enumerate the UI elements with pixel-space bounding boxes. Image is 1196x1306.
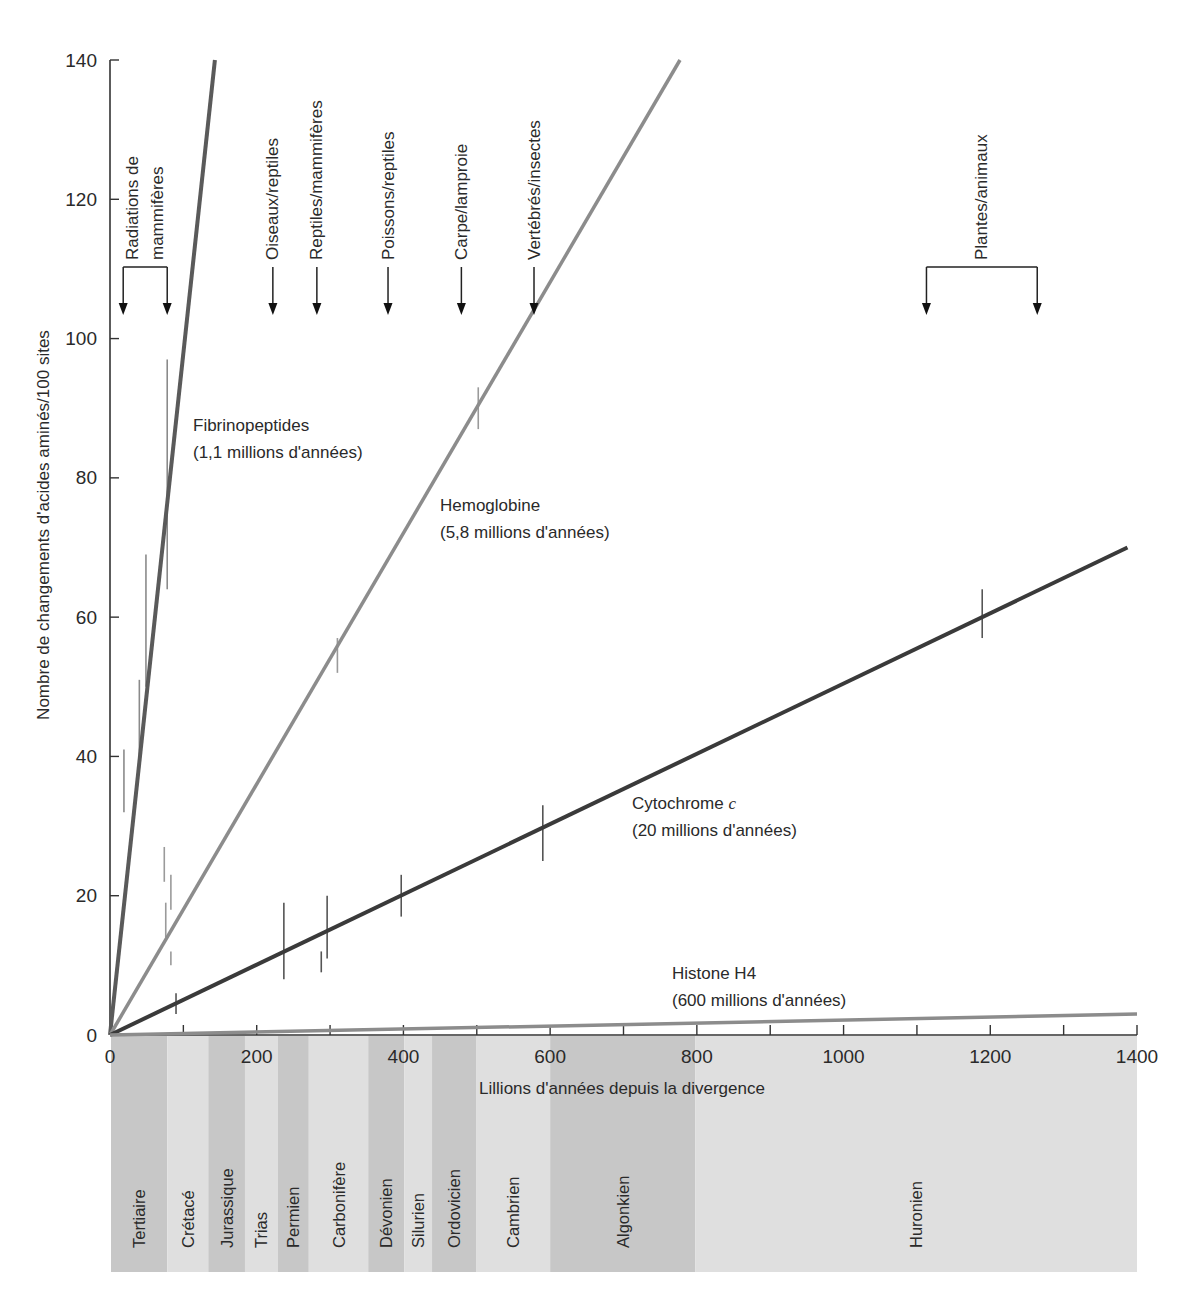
series-name-label: Cytochrome c (632, 794, 736, 813)
x-axis-title: Lillions d'années depuis la divergence (479, 1079, 765, 1098)
series-rate-label: (5,8 millions d'années) (440, 523, 610, 542)
series-name: Histone H4 (672, 964, 756, 983)
period-label: Crétacé (179, 1190, 197, 1248)
divergence-label: Vertébrés/insectes (525, 120, 544, 260)
series-name: Fibrinopeptides (193, 416, 309, 435)
arrow-down-icon (457, 303, 466, 315)
geologic-periods-band: TertiaireCrétacéJurassiqueTriasPermienCa… (111, 1036, 1137, 1272)
period-label: Jurassique (218, 1168, 236, 1248)
y-tick-label: 20 (76, 885, 97, 906)
series-name-label: Fibrinopeptides (193, 416, 309, 435)
period-label: Carbonifère (330, 1162, 348, 1248)
y-tick-label: 0 (86, 1025, 97, 1046)
x-tick-label: 800 (681, 1046, 713, 1067)
arrow-down-icon (268, 303, 277, 315)
divergence-label: Radiations de (123, 156, 142, 260)
arrow-down-icon (384, 303, 393, 315)
y-tick-label: 120 (65, 189, 97, 210)
y-tick-label: 40 (76, 746, 97, 767)
period-label: Huronien (907, 1181, 925, 1248)
period-label: Ordovicien (445, 1169, 463, 1248)
divergence-label: Oiseaux/reptiles (263, 138, 282, 260)
series-rate-label: (20 millions d'années) (632, 821, 797, 840)
arrow-down-icon (312, 303, 321, 315)
y-tick-label: 140 (65, 50, 97, 71)
period-label: Cambrien (504, 1176, 522, 1248)
series-labels: Fibrinopeptides(1,1 millions d'années)He… (193, 416, 846, 1010)
period-label: Algonkien (614, 1176, 632, 1248)
period-label: Dévonien (377, 1178, 395, 1248)
x-tick-label: 400 (388, 1046, 420, 1067)
divergence-label: Carpe/lamproie (452, 144, 471, 260)
series-name: Hemoglobine (440, 496, 540, 515)
y-axis-title: Nombre de changements d'acides aminés/10… (34, 330, 53, 720)
divergence-label: Reptiles/mammifères (307, 100, 326, 260)
divergence-label: mammifères (148, 166, 167, 260)
x-tick-label: 600 (534, 1046, 566, 1067)
divergence-annotations: Radiations demammifèresOiseaux/reptilesR… (119, 100, 1042, 315)
chart-canvas: TertiaireCrétacéJurassiqueTriasPermienCa… (0, 0, 1196, 1306)
series-name-label: Histone H4 (672, 964, 756, 983)
x-tick-label: 200 (241, 1046, 273, 1067)
arrow-down-icon (1033, 303, 1042, 315)
arrow-down-icon (922, 303, 931, 315)
period-label: Silurien (409, 1193, 427, 1248)
arrow-down-icon (163, 303, 172, 315)
period-label: Permien (284, 1187, 302, 1248)
molecular-clock-figure: TertiaireCrétacéJurassiqueTriasPermienCa… (0, 0, 1196, 1306)
series-rate-label: (600 millions d'années) (672, 991, 846, 1010)
y-tick-label: 100 (65, 328, 97, 349)
divergence-label: Plantes/animaux (972, 134, 991, 260)
series-name-italic: c (728, 794, 736, 813)
period-label: Trias (252, 1212, 270, 1248)
series-rate-label: (1,1 millions d'années) (193, 443, 363, 462)
y-tick-label: 60 (76, 607, 97, 628)
period-label: Tertiaire (130, 1189, 148, 1248)
series-name: Cytochrome (632, 794, 728, 813)
x-tick-label: 0 (105, 1046, 116, 1067)
arrow-down-icon (119, 303, 128, 315)
axes: 0204060801001201400200400600800100012001… (65, 50, 1158, 1068)
series-line-cytochrome (110, 548, 1127, 1036)
series-name-label: Hemoglobine (440, 496, 540, 515)
divergence-label: Poissons/reptiles (379, 131, 398, 260)
x-tick-label: 1200 (969, 1046, 1011, 1067)
x-tick-label: 1000 (822, 1046, 864, 1067)
x-tick-label: 1400 (1116, 1046, 1158, 1067)
y-tick-label: 80 (76, 467, 97, 488)
